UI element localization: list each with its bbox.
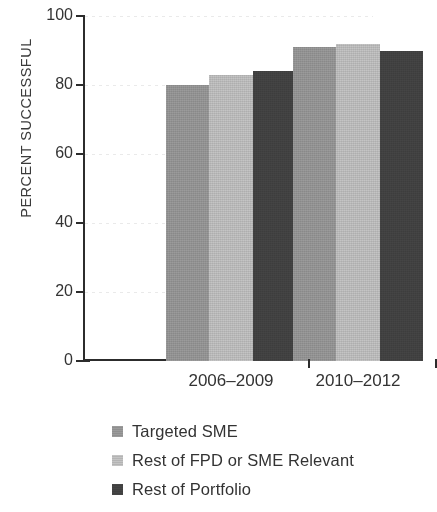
bar-fill — [380, 51, 423, 362]
x-axis-label-1: 2006–2009 — [161, 371, 301, 391]
legend-item-3: Rest of Portfolio — [112, 475, 382, 504]
legend-swatch-icon — [112, 455, 123, 466]
legend-label: Rest of FPD or SME Relevant — [132, 451, 354, 470]
plot-area — [83, 16, 373, 361]
y-axis-line — [83, 16, 85, 361]
y-tick-label-80: 80 — [25, 76, 73, 92]
legend-item-1: Targeted SME — [112, 417, 382, 446]
bar-fill — [253, 71, 296, 361]
gridline-100 — [85, 16, 373, 17]
y-tick-100 — [76, 15, 85, 17]
y-tick-80 — [76, 84, 85, 86]
y-tick-label-20: 20 — [25, 283, 73, 299]
legend-swatch-icon — [112, 426, 123, 437]
x-axis-label-2: 2010–2012 — [288, 371, 428, 391]
bar-1-3 — [253, 71, 296, 361]
bar-fill — [209, 75, 252, 361]
y-tick-0 — [76, 360, 90, 362]
legend-label: Rest of Portfolio — [132, 480, 251, 499]
y-tick-label-40: 40 — [25, 214, 73, 230]
legend-item-2: Rest of FPD or SME Relevant — [112, 446, 382, 475]
bar-fill — [293, 47, 336, 361]
bar-fill — [166, 85, 209, 361]
legend-swatch-icon — [112, 484, 123, 495]
y-axis-label: PERCENT SUCCESSFUL — [18, 18, 34, 238]
y-tick-label-0: 0 — [25, 352, 73, 368]
bar-1-2 — [209, 75, 252, 361]
bar-1-1 — [166, 85, 209, 361]
bar-fill — [336, 44, 379, 361]
bar-2-2 — [336, 44, 379, 361]
bar-2-3 — [380, 51, 423, 362]
bar-2-1 — [293, 47, 336, 361]
legend: Targeted SMERest of FPD or SME RelevantR… — [112, 417, 382, 504]
legend-label: Targeted SME — [132, 422, 238, 441]
y-tick-40 — [76, 222, 85, 224]
x-tick-1 — [308, 359, 310, 368]
y-tick-label-60: 60 — [25, 145, 73, 161]
y-tick-label-100: 100 — [25, 7, 73, 23]
y-tick-20 — [76, 291, 85, 293]
y-tick-60 — [76, 153, 85, 155]
